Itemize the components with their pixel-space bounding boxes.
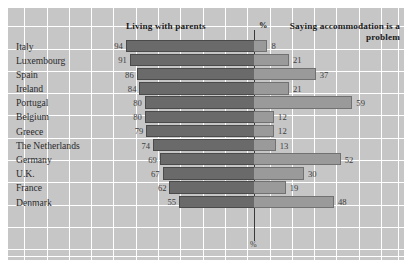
bar-row: U.K.6730: [8, 167, 404, 181]
bar-accommodation-problem: [254, 54, 289, 66]
bar-accommodation-problem: [254, 196, 334, 208]
bar-living-with-parents: [169, 181, 254, 193]
value-label-living-with-parents: 62: [147, 183, 166, 193]
bar-accommodation-problem: [254, 139, 276, 151]
category-label: Portugal: [16, 97, 49, 108]
category-label: Belgium: [16, 111, 49, 122]
value-label-accommodation-problem: 21: [293, 55, 302, 65]
bar-accommodation-problem: [254, 68, 316, 80]
legend-label-living-with-parents: Living with parents: [126, 21, 206, 32]
value-label-accommodation-problem: 37: [320, 70, 329, 80]
bar-row: Luxembourg9121: [8, 53, 404, 67]
value-label-accommodation-problem: 13: [280, 141, 289, 151]
value-label-accommodation-problem: 48: [338, 197, 347, 207]
bar-accommodation-problem: [254, 153, 341, 165]
value-label-accommodation-problem: 12: [278, 112, 287, 122]
value-label-living-with-parents: 79: [124, 126, 143, 136]
bar-living-with-parents: [163, 167, 254, 179]
bar-accommodation-problem: [254, 181, 286, 193]
chart-figure: Living with parents % Saying accommodati…: [0, 0, 412, 269]
bar-row: Belgium8012: [8, 110, 404, 124]
bar-accommodation-problem: [254, 167, 304, 179]
value-label-living-with-parents: 80: [123, 98, 142, 108]
value-label-living-with-parents: 69: [138, 155, 157, 165]
bar-row: Italy948: [8, 39, 404, 53]
bar-living-with-parents: [139, 82, 254, 94]
category-label: Italy: [16, 41, 34, 52]
bar-row: France6219: [8, 181, 404, 195]
bar-row: Denmark5548: [8, 195, 404, 209]
value-label-accommodation-problem: 21: [293, 84, 302, 94]
bar-rows: Italy948Luxembourg9121Spain8637Ireland84…: [8, 39, 404, 209]
bar-living-with-parents: [153, 139, 254, 151]
category-label: France: [16, 182, 42, 193]
value-label-accommodation-problem: 8: [271, 41, 275, 51]
bar-living-with-parents: [145, 111, 254, 123]
value-label-accommodation-problem: 19: [290, 183, 299, 193]
bar-row: Portugal8059: [8, 96, 404, 110]
bar-accommodation-problem: [254, 111, 274, 123]
bar-row: Germany6952: [8, 153, 404, 167]
value-label-accommodation-problem: 52: [345, 155, 354, 165]
bar-accommodation-problem: [254, 96, 352, 108]
bar-living-with-parents: [160, 153, 254, 165]
bar-living-with-parents: [146, 125, 254, 137]
bar-row: The Netherlands7413: [8, 138, 404, 152]
value-label-living-with-parents: 91: [108, 55, 127, 65]
value-label-living-with-parents: 55: [157, 197, 176, 207]
category-label: Denmark: [16, 197, 52, 208]
bar-row: Greece7912: [8, 124, 404, 138]
axis-percent-label: %: [250, 240, 257, 249]
category-label: U.K.: [16, 168, 35, 179]
category-label: The Netherlands: [16, 140, 80, 151]
bar-accommodation-problem: [254, 82, 289, 94]
value-label-living-with-parents: 67: [141, 169, 160, 179]
plot-area: Living with parents % Saying accommodati…: [8, 8, 404, 260]
bar-living-with-parents: [179, 196, 254, 208]
bar-living-with-parents: [126, 40, 254, 52]
bar-row: Spain8637: [8, 67, 404, 81]
category-label: Luxembourg: [16, 55, 65, 66]
bar-living-with-parents: [130, 54, 254, 66]
bar-accommodation-problem: [254, 125, 274, 137]
category-label: Ireland: [16, 83, 43, 94]
bar-living-with-parents: [137, 68, 254, 80]
bar-row: Ireland8421: [8, 82, 404, 96]
value-label-living-with-parents: 86: [115, 70, 134, 80]
value-label-accommodation-problem: 12: [278, 126, 287, 136]
value-label-living-with-parents: 84: [117, 84, 136, 94]
value-label-living-with-parents: 74: [131, 141, 150, 151]
bar-living-with-parents: [145, 96, 254, 108]
category-label: Germany: [16, 154, 52, 165]
value-label-accommodation-problem: 59: [356, 98, 365, 108]
value-label-living-with-parents: 80: [123, 112, 142, 122]
value-label-accommodation-problem: 30: [308, 169, 317, 179]
bar-accommodation-problem: [254, 40, 267, 52]
category-label: Greece: [16, 126, 43, 137]
category-label: Spain: [16, 69, 38, 80]
legend-percent-symbol: %: [259, 21, 268, 32]
value-label-living-with-parents: 94: [104, 41, 123, 51]
